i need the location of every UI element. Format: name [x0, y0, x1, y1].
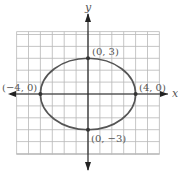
point-bottom	[86, 128, 90, 132]
point-top	[86, 56, 90, 60]
label-right: (4, 0)	[139, 82, 166, 93]
label-top: (0, 3)	[92, 46, 119, 57]
point-right	[134, 92, 138, 96]
label-left: (−4, 0)	[2, 82, 37, 93]
x-axis-label: x	[172, 87, 178, 100]
ellipse-graph: y x (0, 3) (4, 0) (−4, 0) (0, −3)	[0, 0, 178, 175]
y-axis-label: y	[84, 1, 92, 14]
label-bottom: (0, −3)	[91, 133, 126, 144]
y-axis-arrow-down-icon	[85, 162, 91, 171]
point-left	[38, 92, 42, 96]
y-axis-arrow-up-icon	[85, 13, 91, 22]
